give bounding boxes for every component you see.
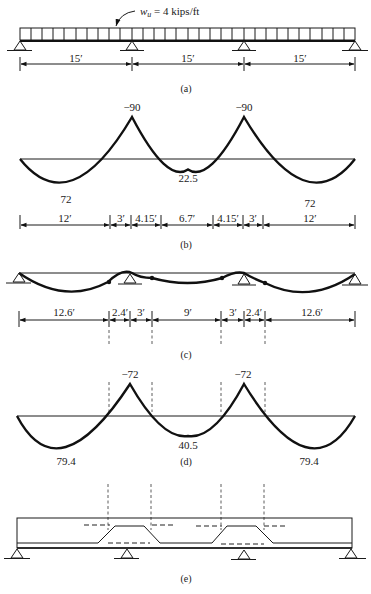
moment-label-support-left: −90	[123, 101, 141, 113]
dim-label: 4.15′	[217, 212, 239, 224]
moment-label-support-right: −90	[235, 101, 253, 113]
span-label: 15′	[293, 52, 306, 64]
support-icon	[114, 549, 139, 559]
moment-label-mid-span: 22.5	[178, 172, 198, 184]
dim-label: 6.7′	[179, 212, 195, 224]
dim-label: 3′	[137, 306, 145, 318]
caption-a: (a)	[180, 83, 191, 95]
load-hatch-lines	[31, 28, 344, 40]
caption-e: (e)	[180, 573, 191, 585]
span-label: 15′	[69, 52, 82, 64]
caption-c: (c)	[180, 349, 191, 361]
support-icon	[231, 550, 256, 560]
panel-d-redistributed-moment-diagram: −72 −72 79.4 40.5 79.4 (d)	[17, 368, 355, 468]
caption-b: (b)	[180, 239, 192, 251]
dim-label: 12.6′	[53, 306, 75, 318]
panel-e-reinforcement-layout: (e)	[4, 484, 366, 585]
moment-label-end-span-right: 79.4	[299, 455, 319, 467]
panel-a-loaded-beam: wu = 4 kips/ft 15′ 15′ 15′ (a)	[7, 5, 368, 95]
bent-bar	[17, 526, 352, 543]
moment-label-end-span-right: 72	[305, 197, 316, 209]
support-icon	[232, 41, 256, 51]
load-pointer-arrow	[116, 11, 135, 26]
dim-label: 12.6′	[301, 306, 323, 318]
caption-d: (d)	[180, 456, 192, 468]
support-icon	[232, 274, 256, 285]
support-icon	[7, 41, 32, 51]
deflected-curve	[19, 272, 355, 292]
support-icon	[120, 41, 144, 51]
dim-label: 12′	[58, 212, 71, 224]
projection-dashed-lines	[109, 330, 265, 346]
dim-label: 12′	[303, 212, 316, 224]
load-label: wu = 4 kips/ft	[140, 5, 199, 19]
support-icon	[339, 549, 366, 559]
panel-c-deflected-shape: 12.6′ 2.4′ 3′ 9′ 3′ 2.4′ 12.6′ (c)	[6, 272, 368, 361]
dim-label: 3′	[117, 212, 125, 224]
support-icon	[4, 549, 30, 559]
panel-b-elastic-moment-diagram: −90 −90 72 22.5 72 12′ 3′ 4.15′ 6.7′ 4.1…	[20, 101, 355, 251]
dim-label: 3′	[229, 306, 237, 318]
dim-label: 2.4′	[246, 306, 262, 318]
moment-label-mid-span: 40.5	[178, 439, 198, 451]
dim-label: 9′	[184, 306, 192, 318]
continuous-beam-figure: wu = 4 kips/ft 15′ 15′ 15′ (a) −90	[0, 0, 371, 594]
moment-label-end-span-left: 79.4	[56, 455, 76, 467]
dim-label: 3′	[249, 212, 257, 224]
dim-label: 2.4′	[112, 306, 128, 318]
moment-label-support-left: −72	[121, 368, 138, 380]
moment-label-support-right: −72	[234, 368, 251, 380]
span-label: 15′	[181, 52, 194, 64]
support-icon	[342, 41, 368, 51]
dim-label: 4.15′	[135, 212, 157, 224]
moment-label-end-span-left: 72	[61, 193, 72, 205]
projection-dashed-lines	[108, 484, 264, 530]
